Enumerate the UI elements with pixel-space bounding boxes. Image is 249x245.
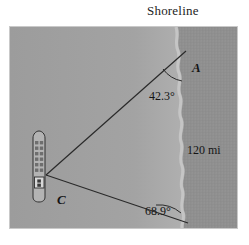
figure-frame: A B C 42.3° 68.9° 120 mi (10, 27, 237, 228)
distance-label: 120 mi (187, 144, 221, 156)
diagram-canvas (10, 27, 237, 228)
land-region (178, 27, 237, 228)
figure-page: Shoreline (0, 0, 249, 245)
point-label-c: C (57, 193, 66, 206)
angle-label-b: 68.9° (145, 205, 171, 217)
point-label-a: A (192, 61, 201, 74)
ship-icon (33, 131, 45, 202)
angle-label-a: 42.3° (149, 90, 175, 102)
shoreline-caption: Shoreline (147, 3, 199, 19)
